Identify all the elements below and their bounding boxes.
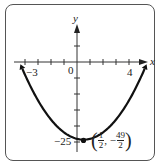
vertex-y-fraction: 49 2 — [116, 131, 125, 150]
y-axis-arrow-icon — [74, 24, 80, 33]
x-tick-label-4: 4 — [127, 67, 133, 78]
parabola-plot — [0, 0, 162, 167]
x-tick-label-neg3: −3 — [26, 67, 38, 78]
y-axis-label: y — [73, 13, 78, 24]
vertex-label: ( 1 2 , − 49 2 ) — [91, 130, 132, 150]
origin-label: 0 — [68, 65, 74, 76]
x-axis-arrow-icon — [139, 59, 148, 65]
vertex-point — [81, 138, 86, 143]
y-tick-label-neg25: −25 — [54, 136, 71, 147]
x-axis-label: x — [150, 56, 155, 67]
